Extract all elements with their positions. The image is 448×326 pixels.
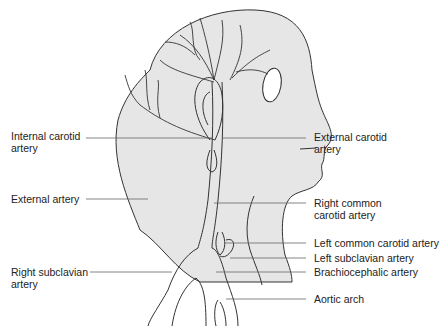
label-internal-carotid-artery: Internal carotid artery xyxy=(11,130,80,154)
label-external-carotid-artery: External carotid artery xyxy=(314,131,387,155)
label-right-subclavian-artery: Right subclavian artery xyxy=(11,266,88,290)
label-right-common-carotid-artery: Right common carotid artery xyxy=(314,197,382,221)
head-outline xyxy=(116,10,331,282)
label-left-common-carotid-artery: Left common carotid artery xyxy=(314,237,439,249)
label-brachiocephalic-artery: Brachiocephalic artery xyxy=(314,266,418,278)
label-external-artery: External artery xyxy=(11,193,79,205)
label-aortic-arch: Aortic arch xyxy=(314,293,364,305)
label-left-subclavian-artery: Left subclavian artery xyxy=(314,252,414,264)
